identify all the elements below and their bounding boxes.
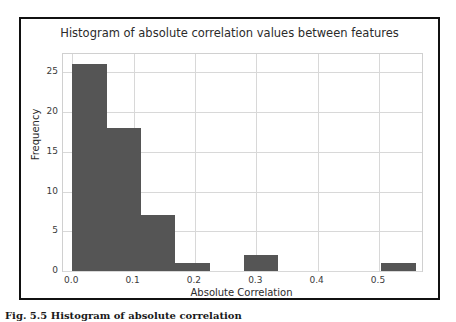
figure-frame: Histogram of absolute correlation values… — [19, 17, 440, 300]
y-axis-label: Frequency — [30, 85, 41, 185]
y-axis-tick-label: 20 — [47, 106, 58, 116]
figure-inner: Histogram of absolute correlation values… — [21, 19, 438, 298]
histogram-bar — [175, 263, 209, 271]
figure-caption: Fig. 5.5 Histogram of absolute correlati… — [5, 309, 305, 322]
histogram-bar — [244, 255, 278, 271]
grid-line-horizontal — [63, 72, 422, 73]
histogram-bar — [72, 64, 106, 271]
y-axis-tick-label: 15 — [47, 146, 58, 156]
grid-line-vertical — [318, 54, 319, 271]
x-axis-tick-label: 0.2 — [187, 275, 201, 285]
histogram-bar — [141, 215, 175, 271]
y-axis-tick-label: 5 — [52, 225, 58, 235]
y-axis-tick-label: 10 — [47, 186, 58, 196]
histogram-bar — [381, 263, 415, 271]
grid-line-vertical — [379, 54, 380, 271]
histogram-bar — [107, 128, 141, 271]
grid-line-vertical — [256, 54, 257, 271]
chart-title: Histogram of absolute correlation values… — [21, 26, 438, 40]
grid-line-horizontal — [63, 112, 422, 113]
y-axis-tick-label: 25 — [47, 66, 58, 76]
x-axis-label: Absolute Correlation — [62, 287, 421, 298]
x-axis-tick-label: 0.5 — [371, 275, 385, 285]
plot-area — [62, 53, 423, 272]
x-axis-tick-label: 0.1 — [125, 275, 139, 285]
grid-line-vertical — [195, 54, 196, 271]
grid-line-horizontal — [63, 271, 422, 272]
y-axis-tick-label: 0 — [52, 265, 58, 275]
x-axis-tick-label: 0.3 — [248, 275, 262, 285]
x-axis-tick-label: 0.0 — [64, 275, 78, 285]
x-axis-tick-label: 0.4 — [310, 275, 324, 285]
